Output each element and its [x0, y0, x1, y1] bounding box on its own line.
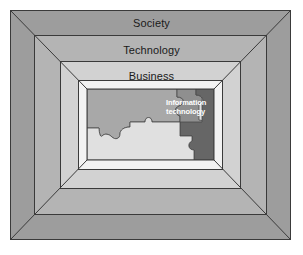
nested-frame-graphic [0, 0, 303, 255]
frame-label-society: Society [0, 17, 303, 29]
frame-label-technology: Technology [0, 44, 303, 56]
frame-label-business: Business [0, 70, 303, 82]
diagram-canvas: Society Technology Business Information … [0, 0, 303, 255]
puzzle-label-technology: technology [166, 108, 205, 117]
